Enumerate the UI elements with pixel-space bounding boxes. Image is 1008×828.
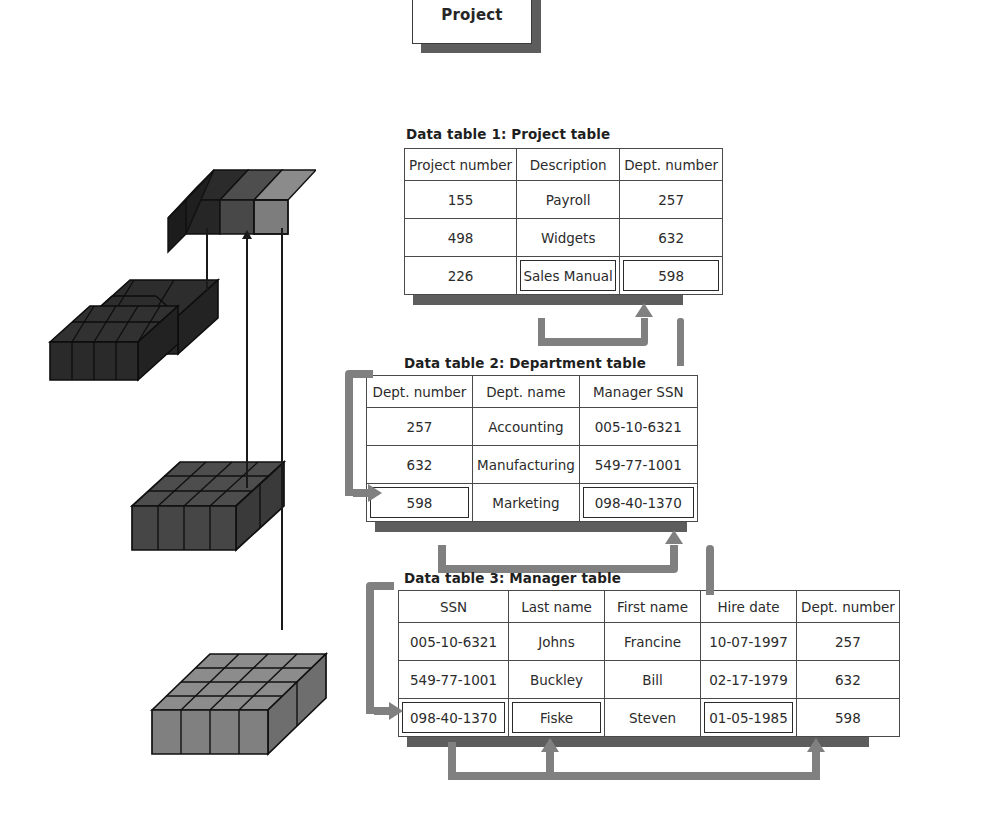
cell-manager-ssn-highlighted[interactable]: 098-40-1370: [579, 484, 697, 522]
cube-stack-mid: [112, 440, 332, 580]
table-row[interactable]: 632 Manufacturing 549-77-1001: [367, 446, 698, 484]
department-table-grid: Dept. number Dept. name Manager SSN 257 …: [366, 375, 698, 522]
caption-manager-table: Data table 3: Manager table: [404, 570, 621, 586]
col-header-description: Description: [517, 149, 620, 181]
cell-project-number[interactable]: 498: [405, 219, 517, 257]
cell-hire-date-highlighted[interactable]: 01-05-1985: [701, 699, 797, 737]
connector-dept-left-top: [345, 370, 373, 378]
cell-hire-date[interactable]: 02-17-1979: [701, 661, 797, 699]
cell-dept-name[interactable]: Accounting: [473, 408, 580, 446]
cube-stack-dark: [38, 278, 238, 418]
cube-legend-row: [156, 158, 316, 258]
cell-dept-number[interactable]: 598: [797, 699, 900, 737]
cell-dept-number[interactable]: 632: [797, 661, 900, 699]
col-header-dept-number: Dept. number: [797, 591, 900, 623]
connector-manager-arrowhead: [389, 702, 403, 720]
cell-description-highlighted[interactable]: Sales Manual: [517, 257, 620, 295]
table-row[interactable]: 226 Sales Manual 598: [405, 257, 723, 295]
col-header-dept-number: Dept. number: [620, 149, 723, 181]
cell-last-name[interactable]: Buckley: [509, 661, 605, 699]
cell-ssn[interactable]: 549-77-1001: [399, 661, 509, 699]
connector-bottom-mid-arrowhead: [541, 738, 559, 752]
project-box: Project: [412, 0, 532, 44]
caption-project-table: Data table 1: Project table: [406, 126, 610, 142]
project-table: Project number Description Dept. number …: [404, 148, 723, 295]
table-header-row: Dept. number Dept. name Manager SSN: [367, 376, 698, 408]
connector-bottom-mid-stem: [546, 752, 554, 774]
pointer-arrow-mid: [242, 230, 252, 239]
table-row[interactable]: 549-77-1001 Buckley Bill 02-17-1979 632: [399, 661, 900, 699]
connector-t2-right-return: [677, 318, 684, 366]
col-header-ssn: SSN: [399, 591, 509, 623]
col-header-hire-date: Hire date: [701, 591, 797, 623]
table-row[interactable]: 498 Widgets 632: [405, 219, 723, 257]
pointer-line-light: [281, 228, 283, 630]
col-header-project-number: Project number: [405, 149, 517, 181]
connector-t3-to-t2-arrowhead: [665, 530, 683, 544]
manager-table: SSN Last name First name Hire date Dept.…: [398, 590, 900, 737]
pointer-line-mid: [246, 238, 248, 488]
department-table: Dept. number Dept. name Manager SSN 257 …: [366, 375, 698, 522]
col-header-dept-number: Dept. number: [367, 376, 473, 408]
connector-bottom-right-arrowhead: [807, 738, 825, 752]
col-header-dept-name: Dept. name: [473, 376, 580, 408]
project-table-grid: Project number Description Dept. number …: [404, 148, 723, 295]
cell-dept-number[interactable]: 632: [620, 219, 723, 257]
col-header-first-name: First name: [605, 591, 701, 623]
table-row[interactable]: 257 Accounting 005-10-6321: [367, 408, 698, 446]
connector-bottom-bar: [448, 772, 820, 780]
diagram-canvas: Project: [0, 0, 1008, 828]
connector-t2-to-t1-bar: [538, 338, 648, 346]
connector-dept-arrowhead: [368, 484, 382, 502]
col-header-last-name: Last name: [509, 591, 605, 623]
cell-dept-number-highlighted[interactable]: 598: [367, 484, 473, 522]
cell-dept-name[interactable]: Manufacturing: [473, 446, 580, 484]
cell-manager-ssn[interactable]: 005-10-6321: [579, 408, 697, 446]
cell-first-name[interactable]: Bill: [605, 661, 701, 699]
cell-last-name-highlighted[interactable]: Fiske: [509, 699, 605, 737]
connector-t3-to-t2-right-stem: [670, 545, 678, 569]
project-box-label: Project: [441, 6, 502, 24]
cell-description[interactable]: Widgets: [517, 219, 620, 257]
manager-table-grid: SSN Last name First name Hire date Dept.…: [398, 590, 900, 737]
cell-project-number[interactable]: 226: [405, 257, 517, 295]
cell-description[interactable]: Payroll: [517, 181, 620, 219]
table-row[interactable]: 098-40-1370 Fiske Steven 01-05-1985 598: [399, 699, 900, 737]
cell-dept-number-highlighted[interactable]: 598: [620, 257, 723, 295]
connector-t2-to-t1-arrowhead: [635, 303, 653, 317]
cell-dept-number[interactable]: 257: [797, 623, 900, 661]
caption-department-table: Data table 2: Department table: [404, 355, 646, 371]
cell-ssn-highlighted[interactable]: 098-40-1370: [399, 699, 509, 737]
cell-ssn[interactable]: 005-10-6321: [399, 623, 509, 661]
cell-dept-number[interactable]: 257: [620, 181, 723, 219]
col-header-manager-ssn: Manager SSN: [579, 376, 697, 408]
cell-first-name[interactable]: Francine: [605, 623, 701, 661]
connector-manager-left-top: [366, 582, 394, 590]
cube-stack-light: [134, 612, 384, 772]
connector-bottom-right-stem: [812, 752, 820, 776]
connector-t2-to-t1-right-stem: [641, 318, 648, 342]
table-row[interactable]: 155 Payroll 257: [405, 181, 723, 219]
table-row[interactable]: 598 Marketing 098-40-1370: [367, 484, 698, 522]
pointer-line-dark: [206, 228, 208, 290]
cell-hire-date[interactable]: 10-07-1997: [701, 623, 797, 661]
connector-dept-left-stem: [345, 374, 353, 496]
cell-dept-number[interactable]: 257: [367, 408, 473, 446]
cell-manager-ssn[interactable]: 549-77-1001: [579, 446, 697, 484]
cell-last-name[interactable]: Johns: [509, 623, 605, 661]
table-row[interactable]: 005-10-6321 Johns Francine 10-07-1997 25…: [399, 623, 900, 661]
cell-first-name[interactable]: Steven: [605, 699, 701, 737]
cell-dept-name[interactable]: Marketing: [473, 484, 580, 522]
cell-project-number[interactable]: 155: [405, 181, 517, 219]
table-header-row: Project number Description Dept. number: [405, 149, 723, 181]
connector-manager-left-stem: [366, 586, 374, 714]
cell-dept-number[interactable]: 632: [367, 446, 473, 484]
table-header-row: SSN Last name First name Hire date Dept.…: [399, 591, 900, 623]
connector-t3-right-return: [706, 545, 714, 595]
